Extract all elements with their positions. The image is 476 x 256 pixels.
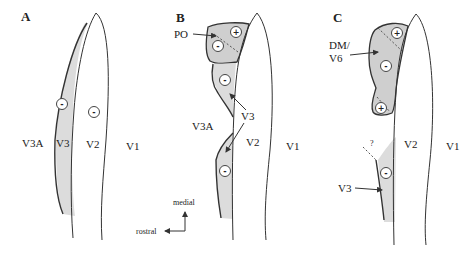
cortical-map-figure: A - - V3A V3 V2 V1 B: [0, 0, 476, 256]
medial-label: medial: [173, 198, 196, 207]
panel-b-sign-po-minus: -: [213, 41, 224, 52]
panel-c-sign-minus-mid: -: [381, 61, 392, 72]
label-po: PO: [174, 28, 188, 40]
panel-c-sign-plus-bottom: +: [376, 103, 387, 114]
panel-b-label: B: [176, 10, 185, 25]
label-v1: V1: [286, 140, 299, 152]
label-dm: DM/: [329, 39, 351, 51]
panel-a: A - - V3A V3 V2 V1: [21, 9, 139, 240]
panel-c-sign-plus-top: +: [392, 28, 403, 39]
panel-b-sign-v3-lower: -: [220, 166, 231, 177]
orientation-compass: medial rostral: [136, 198, 196, 236]
panel-a-v3-region: [56, 23, 88, 216]
svg-text:+: +: [378, 104, 385, 113]
label-v2: V2: [86, 138, 99, 150]
label-v1: V1: [446, 140, 459, 152]
uncertain-mark: ?: [370, 139, 374, 148]
label-v3: V3: [56, 137, 70, 149]
svg-text:-: -: [92, 108, 95, 117]
label-v2: V2: [246, 136, 259, 148]
panel-a-sign-v3: -: [57, 99, 68, 110]
rostral-label: rostral: [136, 227, 157, 236]
label-v2: V2: [404, 138, 417, 150]
svg-text:-: -: [223, 76, 226, 85]
label-v3: V3: [338, 182, 352, 194]
svg-text:-: -: [384, 169, 387, 178]
svg-text:-: -: [60, 100, 63, 109]
label-v3a: V3A: [192, 120, 213, 132]
panel-c: C + - + - DM/ V6 ?: [329, 10, 459, 245]
label-v6: V6: [329, 52, 343, 64]
panel-b-sign-v3-upper: -: [220, 75, 231, 86]
panel-b-sign-po-plus: +: [231, 27, 242, 38]
label-v1: V1: [126, 140, 139, 152]
label-v3: V3: [241, 110, 255, 122]
panel-c-uncertain-border: [363, 147, 376, 160]
svg-text:-: -: [223, 167, 226, 176]
panel-a-label: A: [21, 9, 31, 24]
panel-a-sign-v2: -: [89, 107, 100, 118]
panel-c-sign-minus-v3: -: [381, 168, 392, 179]
panel-b: B + - - - PO V3A: [136, 10, 299, 240]
label-v3a: V3A: [22, 137, 43, 149]
svg-text:+: +: [394, 29, 401, 38]
panel-c-label: C: [333, 10, 342, 25]
svg-text:-: -: [216, 42, 219, 51]
svg-text:-: -: [384, 62, 387, 71]
svg-text:+: +: [233, 28, 240, 37]
v3-pointer-arrow: [355, 188, 382, 190]
